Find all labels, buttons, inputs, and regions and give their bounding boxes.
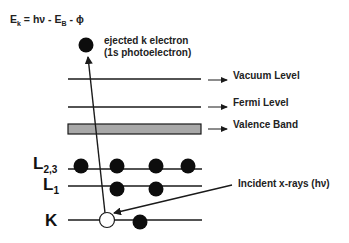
shell-l1-sub: 1 [53,185,59,196]
photoelectron-trajectory-arrow [88,57,105,213]
shell-l23-main: L [33,154,43,173]
shell-l23-sub: 2,3 [43,164,57,175]
l23-electron [181,159,196,174]
incident-xrays-label: Incident x-rays (hν) [238,178,330,189]
incident-xray-arrow [114,185,232,213]
fermi-level-label: Fermi Level [233,97,289,108]
k-vacancy [100,213,115,228]
valence-band [68,124,201,134]
k-electron [133,215,148,230]
shell-label-l23: L2,3 [33,154,57,175]
shell-l1-main: L [43,175,53,194]
l23-electron [74,159,89,174]
l1-electron [110,182,125,197]
ejected-electron [79,38,94,53]
l23-electron [149,159,164,174]
valence-band-label: Valence Band [233,119,298,130]
shell-label-l1: L1 [43,175,59,196]
l1-electron [149,182,164,197]
vacuum-level-label: Vacuum Level [233,70,300,81]
l23-electron [110,159,125,174]
shell-label-k: K [45,211,57,231]
